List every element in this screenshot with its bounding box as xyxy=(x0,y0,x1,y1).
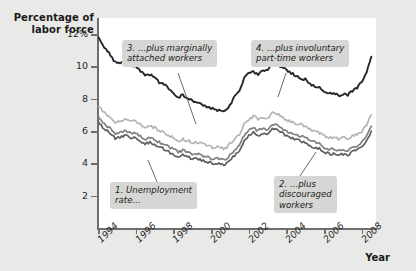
annotation-involuntary-part-time: 4. ...plus involuntary part-time workers xyxy=(251,40,349,67)
y-axis-line xyxy=(97,18,99,230)
y-tick-mark xyxy=(91,163,98,165)
y-tick-mark xyxy=(91,196,98,198)
chart-figure: Percentage of labor force 12%108642 1994… xyxy=(0,0,416,271)
y-tick-label-12: 12% xyxy=(46,29,88,39)
y-tick-mark xyxy=(91,66,98,68)
y-tick-label-6: 6 xyxy=(46,126,88,136)
y-tick-mark xyxy=(91,34,98,36)
annotation-marginally-attached: 3. ...plus marginally attached workers xyxy=(122,40,217,67)
y-tick-mark xyxy=(91,131,98,133)
y-tick-label-2: 2 xyxy=(46,191,88,201)
y-tick-label-4: 4 xyxy=(46,158,88,168)
y-tick-label-8: 8 xyxy=(46,94,88,104)
y-axis-title-line1: Percentage of xyxy=(4,12,94,24)
y-tick-label-10: 10 xyxy=(46,61,88,71)
annotation-unemployment-rate: 1. Unemployment rate... xyxy=(110,182,197,209)
annotation-discouraged-workers: 2. ...plus discouraged workers xyxy=(274,176,337,213)
x-axis-title: Year xyxy=(365,252,390,263)
y-tick-mark xyxy=(91,99,98,101)
